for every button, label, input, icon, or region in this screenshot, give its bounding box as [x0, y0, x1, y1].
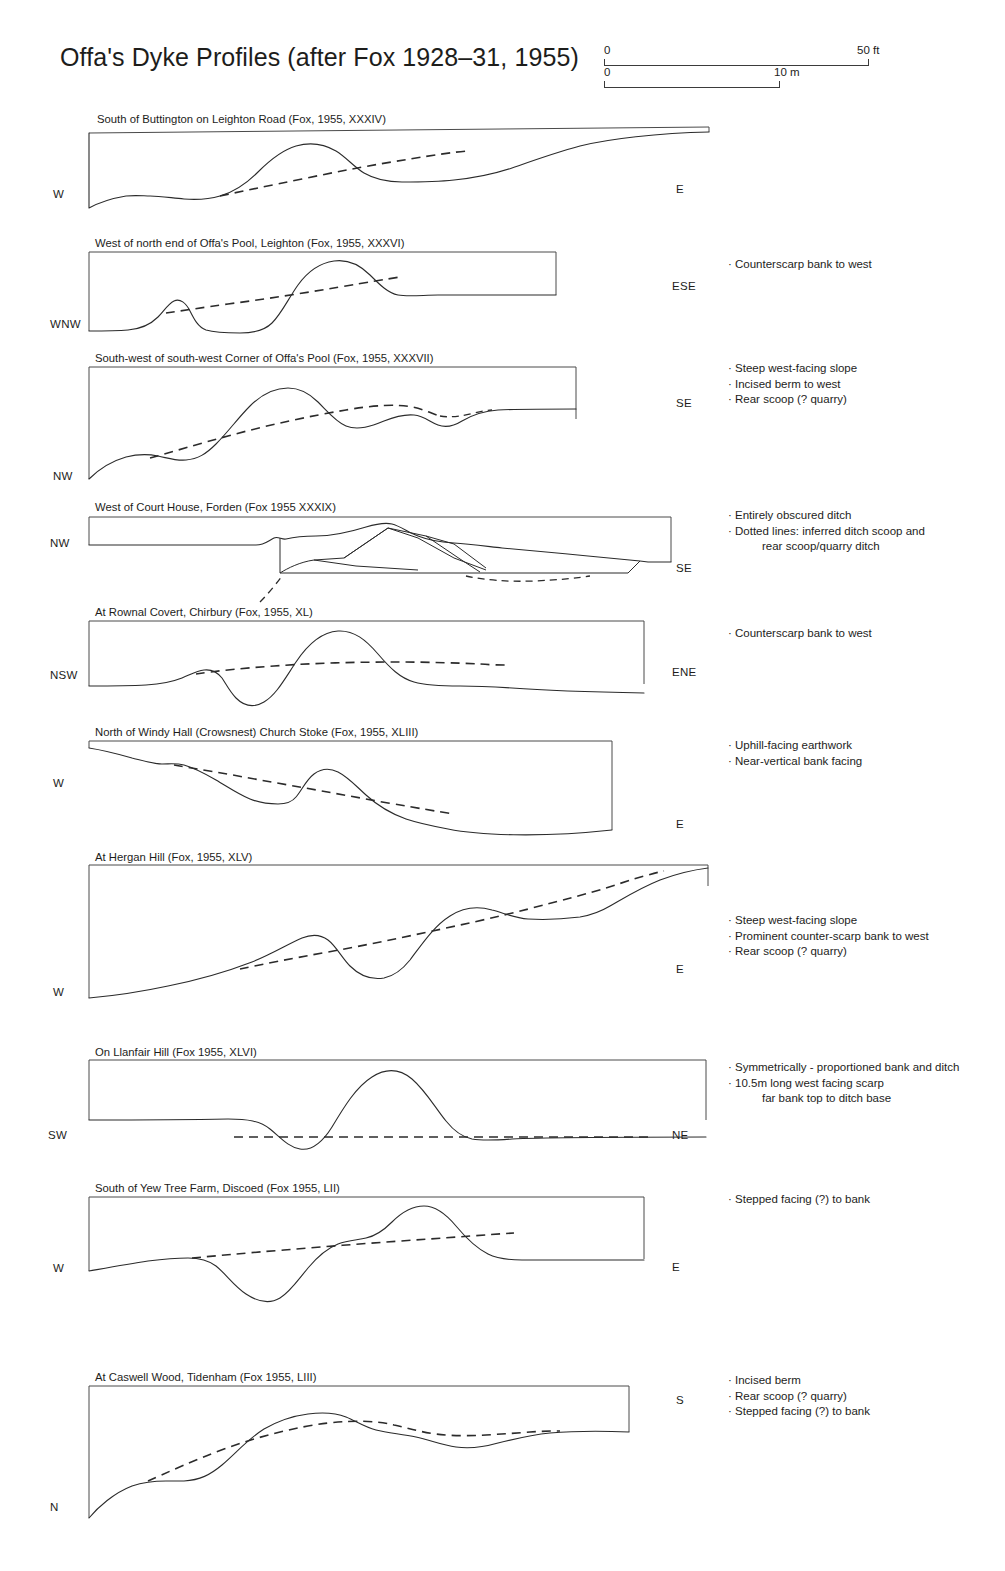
scale-bar: 0 50 ft 0 10 m	[602, 44, 872, 90]
note-item: · Incised berm	[728, 1373, 870, 1389]
direction-label-left: NSW	[50, 669, 78, 681]
profile-notes: · Entirely obscured ditch · Dotted lines…	[728, 508, 925, 555]
direction-label-left: W	[53, 986, 64, 998]
profile-notes: · Incised berm · Rear scoop (? quarry) ·…	[728, 1373, 870, 1420]
note-item: · Rear scoop (? quarry)	[728, 1389, 870, 1405]
direction-label-right: ESE	[672, 280, 696, 292]
profile-notes: · Steep west-facing slope · Incised berm…	[728, 361, 857, 408]
scale-metric-tick-right	[779, 81, 780, 88]
note-item: rear scoop/quarry ditch	[728, 539, 925, 555]
note-item: · Counterscarp bank to west	[728, 257, 872, 273]
direction-label-left: NW	[53, 470, 73, 482]
note-item: · Uphill-facing earthwork	[728, 738, 862, 754]
profile-notes: · Symmetrically - proportioned bank and …	[728, 1060, 959, 1107]
profile-caption: West of Court House, Forden (Fox 1955 XX…	[95, 501, 336, 513]
note-item: · Steep west-facing slope	[728, 361, 857, 377]
note-item: · Steep west-facing slope	[728, 913, 929, 929]
direction-label-left: SW	[48, 1129, 67, 1141]
profile-drawing	[88, 620, 658, 712]
profile-drawing	[88, 366, 578, 486]
direction-label-left: W	[53, 188, 64, 200]
note-item: · Rear scoop (? quarry)	[728, 392, 857, 408]
profile-notes: · Counterscarp bank to west	[728, 257, 872, 273]
profile-drawing	[88, 516, 688, 591]
note-item: · Entirely obscured ditch	[728, 508, 925, 524]
profile-drawing	[88, 864, 723, 1004]
figure-canvas: Offa's Dyke Profiles (after Fox 1928–31,…	[0, 0, 1005, 1571]
scale-imperial-tick-left	[604, 59, 605, 66]
note-item: · Prominent counter-scarp bank to west	[728, 929, 929, 945]
profile-notes: · Stepped facing (?) to bank	[728, 1192, 870, 1208]
profile-caption: West of north end of Offa's Pool, Leight…	[95, 237, 404, 249]
direction-label-right: SE	[676, 397, 692, 409]
direction-label-left: NW	[50, 537, 70, 549]
profile-notes: · Counterscarp bank to west	[728, 626, 872, 642]
note-item: · Symmetrically - proportioned bank and …	[728, 1060, 959, 1076]
note-item: · Near-vertical bank facing	[728, 754, 862, 770]
page-title: Offa's Dyke Profiles (after Fox 1928–31,…	[60, 43, 579, 72]
profile-caption: At Hergan Hill (Fox, 1955, XLV)	[95, 851, 252, 863]
scale-metric-rule	[604, 87, 780, 88]
profile-caption: North of Windy Hall (Crowsnest) Church S…	[95, 726, 418, 738]
scale-imperial-rule	[604, 65, 869, 66]
scale-imperial-start: 0	[604, 44, 610, 56]
scale-imperial-end: 50 ft	[857, 44, 879, 56]
direction-label-right: S	[676, 1394, 684, 1406]
profile-notes: · Uphill-facing earthwork · Near-vertica…	[728, 738, 862, 769]
profile-caption: South-west of south-west Corner of Offa'…	[95, 352, 434, 364]
direction-label-left: W	[53, 777, 64, 789]
note-item: · Stepped facing (?) to bank	[728, 1192, 870, 1208]
direction-label-left: WNW	[50, 318, 81, 330]
profile-caption: At Rownal Covert, Chirbury (Fox, 1955, X…	[95, 606, 313, 618]
profile-drawing	[88, 740, 633, 840]
profile-drawing	[88, 1059, 713, 1154]
profile-caption: South of Buttington on Leighton Road (Fo…	[97, 113, 386, 125]
profile-drawing	[88, 126, 710, 214]
direction-label-left: N	[50, 1501, 59, 1513]
scale-imperial-tick-right	[868, 59, 869, 66]
scale-metric-start: 0	[604, 66, 610, 78]
direction-label-right: E	[676, 818, 684, 830]
note-item: · Rear scoop (? quarry)	[728, 944, 929, 960]
note-item: · Incised berm to west	[728, 377, 857, 393]
profile-caption: On Llanfair Hill (Fox 1955, XLVI)	[95, 1046, 257, 1058]
profile-drawing	[88, 1385, 648, 1525]
note-item: · Dotted lines: inferred ditch scoop and	[728, 524, 925, 540]
scale-metric-tick-left	[604, 81, 605, 88]
profile-caption: South of Yew Tree Farm, Discoed (Fox 195…	[95, 1182, 340, 1194]
scale-metric-end: 10 m	[774, 66, 800, 78]
note-item: · Counterscarp bank to west	[728, 626, 872, 642]
direction-label-left: W	[53, 1262, 64, 1274]
profile-drawing	[88, 1196, 658, 1311]
direction-label-right: E	[672, 1261, 680, 1273]
direction-label-right: ENE	[672, 666, 697, 678]
note-item: · 10.5m long west facing scarp	[728, 1076, 959, 1092]
note-item: · Stepped facing (?) to bank	[728, 1404, 870, 1420]
profile-caption: At Caswell Wood, Tidenham (Fox 1955, LII…	[95, 1371, 316, 1383]
profile-notes: · Steep west-facing slope · Prominent co…	[728, 913, 929, 960]
profile-drawing	[88, 251, 558, 339]
note-item: far bank top to ditch base	[728, 1091, 959, 1107]
